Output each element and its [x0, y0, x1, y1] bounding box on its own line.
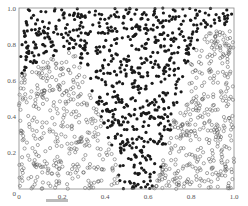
hollow-point [203, 111, 206, 114]
filled-point [126, 121, 129, 124]
hollow-point [222, 38, 225, 41]
hollow-point [229, 120, 232, 123]
filled-point [159, 122, 162, 125]
filled-point [106, 26, 109, 29]
filled-point [162, 72, 165, 75]
filled-point [120, 100, 123, 103]
hollow-point [45, 121, 48, 124]
filled-point [122, 164, 125, 167]
hollow-point [18, 93, 21, 96]
filled-point [131, 137, 134, 140]
filled-point [32, 54, 35, 57]
hollow-point [207, 178, 210, 181]
filled-point [188, 43, 191, 46]
hollow-point [61, 121, 64, 124]
hollow-point [191, 165, 194, 168]
filled-point [189, 19, 192, 22]
hollow-point [198, 138, 201, 141]
hollow-point [210, 180, 213, 183]
filled-point [120, 123, 123, 126]
filled-point [24, 58, 27, 61]
filled-point [133, 108, 136, 111]
filled-point [152, 24, 155, 27]
hollow-point [210, 123, 213, 126]
hollow-point [198, 184, 201, 187]
filled-point [99, 69, 102, 72]
hollow-point [32, 134, 35, 137]
filled-point [162, 100, 165, 103]
filled-point [175, 101, 178, 104]
filled-point [106, 31, 109, 34]
hollow-point [36, 84, 39, 87]
hollow-point [28, 158, 31, 161]
filled-point [53, 49, 56, 52]
hollow-point [226, 58, 229, 61]
filled-point [34, 22, 37, 25]
hollow-point [58, 74, 61, 77]
filled-point [155, 100, 158, 103]
filled-point [198, 10, 201, 13]
filled-point [162, 11, 165, 14]
hollow-point [65, 60, 68, 63]
filled-point [151, 82, 154, 85]
hollow-point [56, 155, 59, 158]
hollow-point [41, 121, 44, 124]
hollow-point [170, 159, 173, 162]
hollow-point [198, 55, 201, 58]
hollow-point [33, 159, 36, 162]
hollow-point [231, 178, 234, 181]
filled-point [35, 60, 38, 63]
hollow-point [190, 90, 193, 93]
filled-point [74, 43, 77, 46]
filled-point [167, 119, 170, 122]
hollow-point [76, 76, 79, 79]
hollow-point [226, 76, 229, 79]
filled-point [202, 19, 205, 22]
filled-point [152, 28, 155, 31]
filled-point [163, 78, 166, 81]
filled-point [146, 183, 149, 186]
hollow-point [221, 62, 224, 65]
filled-point [144, 43, 147, 46]
caption-placeholder [46, 199, 196, 203]
hollow-point [53, 123, 56, 126]
filled-point [121, 82, 124, 85]
hollow-point [90, 122, 93, 125]
filled-point [222, 12, 225, 15]
hollow-point [89, 186, 92, 189]
filled-point [25, 20, 28, 23]
filled-point [79, 61, 82, 64]
hollow-point [220, 161, 223, 164]
filled-point [149, 173, 152, 176]
filled-point [139, 57, 142, 60]
filled-point [91, 23, 94, 26]
filled-point [110, 54, 113, 57]
hollow-point [206, 55, 209, 58]
filled-point [148, 175, 151, 178]
filled-point [109, 125, 112, 128]
filled-point [156, 26, 159, 29]
hollow-point [194, 99, 197, 102]
filled-point [116, 97, 119, 100]
filled-point [122, 120, 125, 123]
filled-point [111, 95, 114, 98]
hollow-point [31, 119, 34, 122]
filled-point [145, 158, 148, 161]
filled-point [23, 31, 26, 34]
filled-point [168, 15, 171, 18]
hollow-point [46, 61, 49, 64]
filled-point [144, 131, 147, 134]
filled-point [194, 8, 197, 11]
hollow-point [88, 144, 91, 147]
filled-point [113, 70, 116, 73]
filled-point [218, 19, 221, 22]
hollow-point [93, 181, 96, 184]
filled-point [145, 13, 148, 16]
hollow-point [55, 78, 58, 81]
hollow-point [196, 148, 199, 151]
filled-point [51, 40, 54, 43]
filled-point [114, 27, 117, 30]
filled-point [167, 106, 170, 109]
filled-point [79, 24, 82, 27]
hollow-point [224, 119, 227, 122]
